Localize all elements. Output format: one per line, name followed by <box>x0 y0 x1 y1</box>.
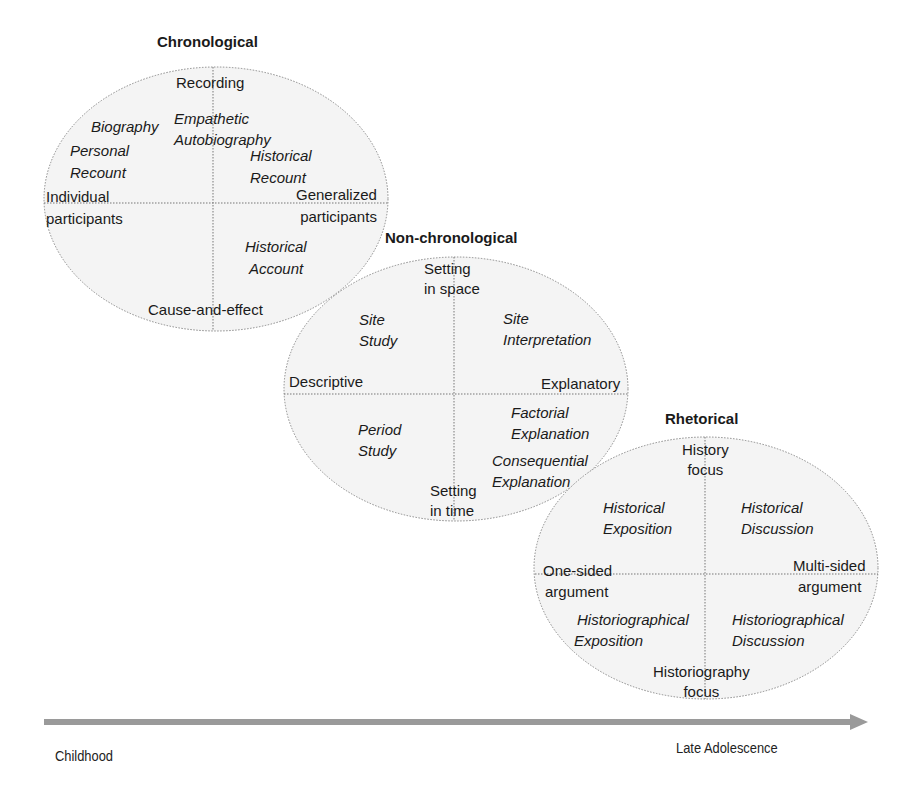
axis-cause-and-effect: Cause-and-effect <box>148 300 263 319</box>
axis-descriptive: Descriptive <box>289 372 363 391</box>
axis-explanatory: Explanatory <box>541 374 620 393</box>
genre-historical-discussion: Historical Discussion <box>741 497 814 539</box>
axis-setting-in-space: Setting in space <box>424 259 480 299</box>
timeline-arrow <box>44 714 868 730</box>
rhetorical-title: Rhetorical <box>665 410 738 427</box>
genre-site-interpretation: Site Interpretation <box>503 308 591 350</box>
genre-biography: Biography <box>91 117 159 136</box>
genre-factorial-explanation: Factorial Explanation <box>511 402 589 444</box>
genre-historical-account: Historical Account <box>245 236 307 280</box>
genre-consequential-explanation: Consequential Explanation <box>492 450 588 492</box>
axis-one-sided-argument: One-sided argument <box>543 560 612 602</box>
genre-historiographical-discussion: Historiographical Discussion <box>732 609 844 651</box>
axis-recording: Recording <box>176 73 244 92</box>
non-chronological-title: Non-chronological <box>385 229 518 246</box>
axis-historiography-focus: Historiography focus <box>653 662 750 702</box>
axis-individual-participants: Individual participants <box>46 186 123 230</box>
genre-period-study: Period Study <box>358 419 401 461</box>
genre-empathetic-autobiography: Empathetic Autobiography <box>174 108 271 150</box>
axis-history-focus: History focus <box>682 440 729 480</box>
genre-site-study: Site Study <box>359 309 397 351</box>
genre-historiographical-exposition: Historiographical Exposition <box>574 609 689 651</box>
genre-personal-recount: Personal Recount <box>70 140 129 184</box>
axis-generalized-participants: Generalized participants <box>296 184 377 228</box>
chronological-title: Chronological <box>157 33 258 50</box>
timeline-end-label: Late Adolescence <box>676 740 778 756</box>
genre-historical-recount: Historical Recount <box>250 145 312 189</box>
axis-setting-in-time: Setting in time <box>430 481 477 521</box>
timeline-start-label: Childhood <box>55 748 113 764</box>
genre-historical-exposition: Historical Exposition <box>603 497 672 539</box>
axis-multi-sided-argument: Multi-sided argument <box>793 555 866 597</box>
